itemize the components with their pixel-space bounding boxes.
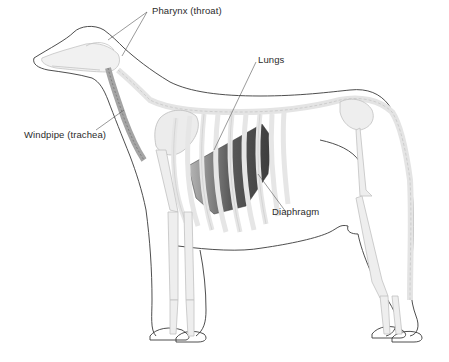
dog-respiratory-diagram: Pharynx (throat) Lungs Windpipe (trachea… bbox=[0, 0, 449, 362]
windpipe-label: Windpipe (trachea) bbox=[24, 129, 106, 140]
hind-leg-bones bbox=[340, 99, 402, 334]
diaphragm-label: Diaphragm bbox=[272, 206, 319, 217]
pharynx-leader-b bbox=[122, 12, 147, 56]
lungs-label: Lungs bbox=[258, 54, 284, 65]
pharynx-leader-a bbox=[108, 12, 147, 40]
dog-illustration bbox=[0, 0, 449, 362]
windpipe-leader bbox=[96, 110, 124, 130]
pharynx-label: Pharynx (throat) bbox=[152, 5, 222, 16]
